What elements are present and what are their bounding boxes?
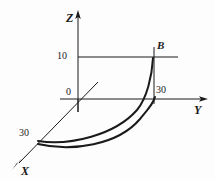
y-axis-label: Y xyxy=(194,104,201,116)
point-label-b: B xyxy=(157,40,164,51)
y-axis xyxy=(60,96,208,102)
diagram-canvas xyxy=(0,0,215,180)
x-axis xyxy=(12,82,98,170)
z-axis-label: Z xyxy=(66,12,73,24)
curve-upper xyxy=(38,58,153,142)
origin-label: 0 xyxy=(66,87,71,97)
x-tick-label-30: 30 xyxy=(19,128,29,138)
z-axis xyxy=(75,10,81,112)
curve-lower xyxy=(38,97,155,147)
y-tick-label-30: 30 xyxy=(156,85,166,95)
x-axis-label: X xyxy=(21,165,29,177)
coordinate-axes-diagram: Z Y X 10 0 30 30 B xyxy=(0,0,215,180)
z-tick-label-10: 10 xyxy=(57,51,67,61)
